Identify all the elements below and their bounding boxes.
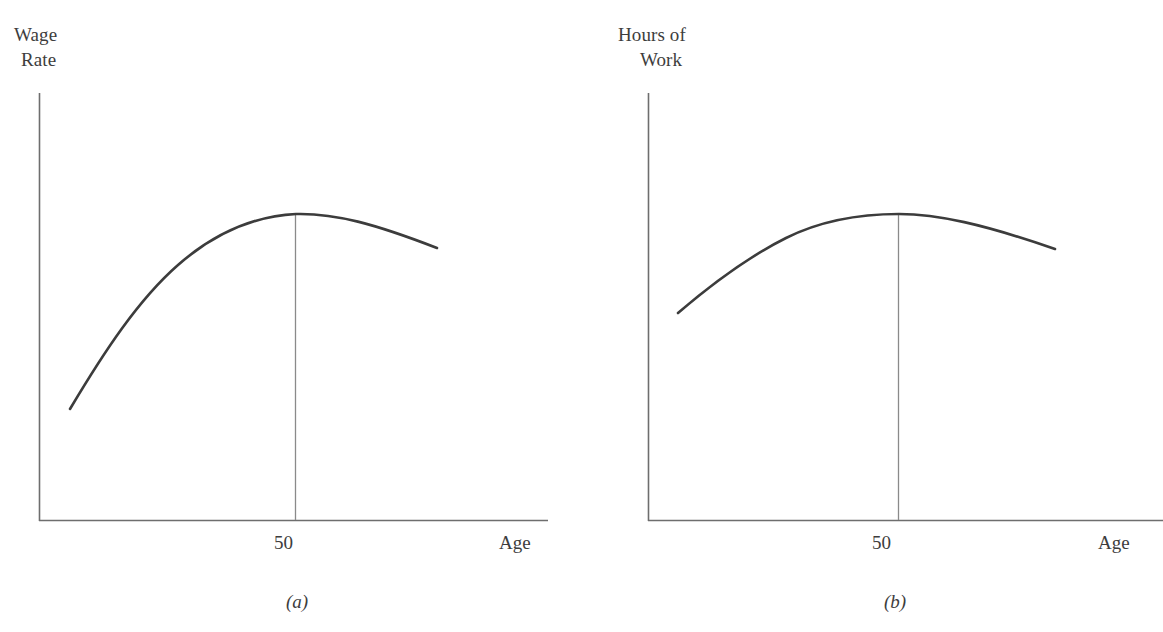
panel-caption-a: (a) [277,592,317,612]
hours-of-work-curve [678,214,1055,313]
x-tick-label-50: 50 [872,533,891,553]
x-tick-label-50: 50 [274,533,293,553]
x-axis-title-age: Age [1098,533,1130,553]
panel-hours-of-work: Hours of Work 50 Age (b) [581,0,1163,632]
panel-wage-rate: Wage Rate 50 Age (a) [0,0,582,632]
wage-rate-curve [70,214,437,409]
figure-root: Wage Rate 50 Age (a) Hours of Work [0,0,1163,632]
panel-caption-b: (b) [875,592,915,612]
x-axis-title-age: Age [499,533,531,553]
